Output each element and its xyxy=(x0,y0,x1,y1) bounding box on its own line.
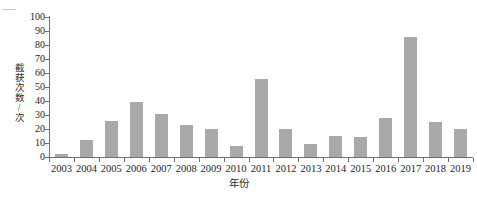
y-axis-tick-label: 100 xyxy=(23,12,45,22)
y-axis-tick-labels: 0102030405060708090100 xyxy=(22,17,45,157)
bar-chart-figure: 截获次数/次 0102030405060708090100 2003200420… xyxy=(0,0,477,200)
bar xyxy=(205,129,218,157)
y-axis-tick-label: 50 xyxy=(23,82,45,92)
bar xyxy=(80,140,93,157)
y-axis-tick-label: 20 xyxy=(23,124,45,134)
x-axis-title: 年份 xyxy=(0,178,477,190)
y-axis-tick-label: 60 xyxy=(23,68,45,78)
y-axis-tick-label: 90 xyxy=(23,26,45,36)
y-axis-tick-label: 10 xyxy=(23,138,45,148)
bar xyxy=(404,37,417,157)
plot-area xyxy=(49,17,473,157)
bar xyxy=(130,102,143,157)
bar xyxy=(354,137,367,157)
bar xyxy=(329,136,342,157)
scan-edge-artifact xyxy=(2,9,16,10)
x-axis-tick-label: 2019 xyxy=(444,162,477,175)
bar xyxy=(279,129,292,157)
y-axis-tick-label: 70 xyxy=(23,54,45,64)
bar xyxy=(304,144,317,157)
bar xyxy=(379,118,392,157)
y-axis-tick-label: 30 xyxy=(23,110,45,120)
bar xyxy=(454,129,467,157)
bar xyxy=(105,121,118,157)
y-axis-tick-label: 0 xyxy=(23,152,45,162)
x-axis-tick-labels: 2003200420052006200720082009201020112012… xyxy=(49,162,473,176)
y-axis-tick-label: 80 xyxy=(23,40,45,50)
bar xyxy=(155,114,168,157)
y-axis-tick-label: 40 xyxy=(23,96,45,106)
bar xyxy=(180,125,193,157)
bar xyxy=(255,79,268,157)
bar xyxy=(230,146,243,157)
bar xyxy=(55,154,68,157)
bar xyxy=(429,122,442,157)
